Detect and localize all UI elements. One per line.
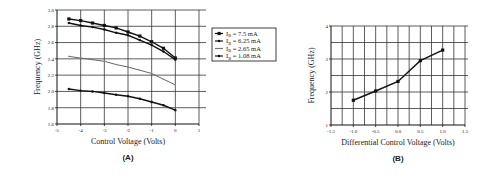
data-point — [79, 89, 81, 91]
data-point — [103, 92, 105, 94]
data-point — [139, 39, 141, 41]
data-point — [374, 89, 377, 92]
series-line — [69, 23, 175, 60]
y-tick-label: 2.8 — [48, 24, 55, 29]
y-tick-label: 2.2 — [48, 73, 55, 78]
data-point — [175, 84, 177, 86]
data-point — [150, 40, 153, 43]
data-point — [115, 93, 117, 95]
data-point — [80, 57, 82, 59]
data-point — [91, 26, 93, 28]
data-point — [115, 64, 117, 66]
x-tick-label: -1.0 — [349, 129, 357, 134]
y-tick-label: 1.6 — [48, 122, 55, 127]
data-point — [79, 24, 81, 26]
y-tick-label: 2.6 — [48, 40, 55, 45]
data-point — [139, 98, 141, 100]
x-tick-label: 0.5 — [417, 129, 424, 134]
x-tick-label: 1.0 — [440, 129, 447, 134]
x-tick-label: 0.0 — [395, 129, 402, 134]
data-point — [138, 34, 141, 37]
data-point — [91, 21, 94, 24]
data-point — [162, 104, 164, 106]
panel-caption: (B) — [392, 154, 403, 163]
panel-caption: (A) — [122, 153, 133, 162]
series-line — [69, 19, 175, 58]
data-point — [163, 78, 165, 80]
data-point — [151, 73, 153, 75]
x-tick-label: -5 — [55, 128, 60, 133]
x-tick-label: -2 — [126, 128, 131, 133]
x-tick-label: -0.5 — [372, 129, 380, 134]
data-point — [441, 48, 444, 51]
x-tick-label: 0 — [174, 128, 177, 133]
data-point — [150, 44, 152, 46]
data-point — [79, 19, 82, 22]
y-tick-label: 3.0 — [48, 8, 55, 13]
data-point — [396, 80, 399, 83]
y-tick-label: 4 — [326, 24, 329, 29]
y-axis-label: Frequency (GHz) — [307, 47, 316, 104]
series-line — [69, 89, 175, 110]
data-point — [174, 109, 176, 111]
y-tick-label: 2 — [326, 90, 329, 95]
data-point — [352, 99, 355, 102]
y-tick-label: 2.0 — [48, 89, 55, 94]
data-point — [174, 58, 176, 60]
data-point — [162, 47, 165, 50]
series-line — [69, 56, 175, 84]
data-point — [115, 32, 117, 34]
data-point — [127, 95, 129, 97]
x-tick-label: 1.5 — [462, 129, 469, 134]
y-tick-label: 2.4 — [48, 57, 55, 62]
x-tick-label: -1.5 — [327, 129, 335, 134]
x-axis-label: Control Voltage (Volts) — [91, 137, 166, 146]
data-point — [150, 101, 152, 103]
data-point — [103, 28, 105, 30]
data-point — [162, 50, 164, 52]
data-point — [126, 30, 129, 33]
data-point — [92, 59, 94, 61]
chart-b: -1.5-1.0-0.50.00.51.01.51234Differential… — [307, 24, 469, 163]
x-tick-label: -4 — [79, 128, 84, 133]
data-point — [103, 24, 106, 27]
data-point — [127, 34, 129, 36]
data-point — [419, 59, 422, 62]
x-axis-label: Differential Control Voltage (Volts) — [341, 138, 455, 147]
data-point — [104, 61, 106, 63]
data-point — [68, 56, 70, 58]
y-tick-label: 1 — [326, 123, 329, 128]
legend: IB = 7.5 mAIB = 6.25 mAIB = 2.65 mAIB = … — [212, 28, 276, 61]
figure: -5-4-3-2-1011.61.82.02.22.42.62.83.0Cont… — [0, 0, 494, 174]
data-point — [139, 69, 141, 71]
x-tick-label: 1 — [198, 128, 201, 133]
x-tick-label: -3 — [102, 128, 107, 133]
data-point — [68, 22, 70, 24]
data-point — [115, 26, 118, 29]
y-axis-label: Frequency (GHz) — [33, 39, 42, 96]
data-point — [91, 90, 93, 92]
y-tick-label: 3 — [326, 57, 329, 62]
data-point — [127, 66, 129, 68]
chart-a: -5-4-3-2-1011.61.82.02.22.42.62.83.0Cont… — [33, 8, 276, 162]
y-tick-label: 1.8 — [48, 106, 55, 111]
data-point — [68, 88, 70, 90]
data-point — [67, 17, 70, 20]
x-tick-label: -1 — [150, 128, 155, 133]
